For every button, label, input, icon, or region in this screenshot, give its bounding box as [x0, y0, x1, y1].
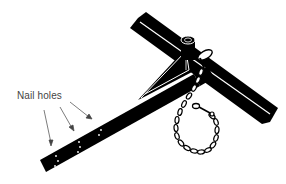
stake-bar [40, 66, 214, 172]
diagram-illustration: Nail holes [0, 0, 286, 184]
top-post [181, 36, 195, 60]
nail-holes-label: Nail holes [17, 90, 62, 101]
chain-hook [193, 104, 215, 117]
